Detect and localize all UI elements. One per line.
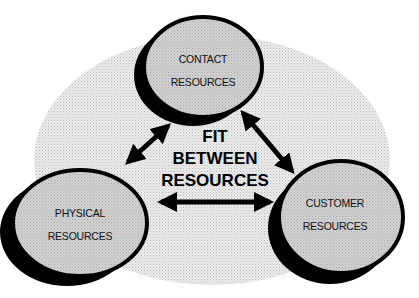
center-title-line1: FIT [150,126,280,148]
contact-resources-label: CONTACT RESOURCES [153,48,253,94]
contact-line2: RESOURCES [153,71,253,94]
physical-line1: PHYSICAL [30,202,130,225]
customer-line2: RESOURCES [283,215,387,238]
center-title-line3: RESOURCES [150,170,280,192]
contact-line1: CONTACT [153,48,253,71]
physical-resources-label: PHYSICAL RESOURCES [30,202,130,248]
physical-line2: RESOURCES [30,225,130,248]
customer-line1: CUSTOMER [283,192,387,215]
customer-resources-label: CUSTOMER RESOURCES [283,192,387,238]
center-title: FIT BETWEEN RESOURCES [150,126,280,192]
center-title-line2: BETWEEN [150,148,280,170]
